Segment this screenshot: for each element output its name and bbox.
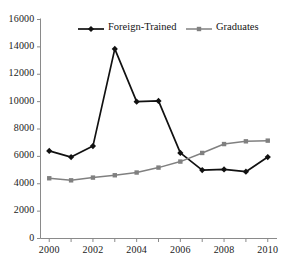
- data-point-marker: [244, 139, 248, 143]
- chart-container: 0200040006000800010000120001400016000 20…: [0, 0, 287, 264]
- y-axis-tick-label: 4000: [0, 177, 35, 188]
- data-point-marker: [178, 159, 182, 163]
- series-line: [49, 141, 268, 181]
- data-point-marker: [156, 165, 160, 169]
- data-point-marker: [197, 27, 201, 31]
- data-point-marker: [222, 142, 226, 146]
- y-axis-tick-label: 6000: [0, 149, 35, 160]
- series-graduates: [47, 138, 270, 182]
- data-point-marker: [134, 170, 138, 174]
- data-point-marker: [113, 173, 117, 177]
- legend-label: Foreign-Trained: [108, 21, 176, 32]
- data-point-marker: [69, 178, 73, 182]
- x-axis-tick-label: 2002: [68, 244, 118, 255]
- data-point-marker: [46, 148, 52, 154]
- legend-item-foreign-trained: [78, 26, 104, 32]
- legend-label: Graduates: [216, 21, 259, 32]
- y-axis-tick-label: 8000: [0, 122, 35, 133]
- data-point-marker: [266, 138, 270, 142]
- data-point-marker: [68, 154, 74, 160]
- series-foreign-trained: [46, 46, 271, 175]
- data-point-marker: [221, 166, 227, 172]
- y-axis-tick-label: 16000: [0, 13, 35, 24]
- data-point-marker: [91, 175, 95, 179]
- y-axis-tick-label: 12000: [0, 67, 35, 78]
- data-point-marker: [47, 176, 51, 180]
- x-axis-tick-label: 2004: [112, 244, 162, 255]
- legend-item-graduates: [186, 27, 212, 31]
- x-axis-tick-label: 2008: [199, 244, 249, 255]
- y-axis-tick-label: 0: [0, 232, 35, 243]
- series-line: [49, 49, 268, 172]
- data-point-marker: [90, 143, 96, 149]
- line-chart-plot: [0, 0, 287, 264]
- data-point-marker: [155, 98, 161, 104]
- x-axis-tick-label: 2006: [155, 244, 205, 255]
- y-axis-tick-label: 2000: [0, 204, 35, 215]
- chart-axes: [37, 19, 277, 243]
- data-point-marker: [200, 151, 204, 155]
- data-point-marker: [88, 26, 94, 32]
- chart-series: [46, 46, 271, 183]
- y-axis-tick-label: 14000: [0, 40, 35, 51]
- x-axis-tick-label: 2010: [243, 244, 287, 255]
- y-axis-tick-label: 10000: [0, 95, 35, 106]
- x-axis-tick-label: 2000: [24, 244, 74, 255]
- data-point-marker: [112, 46, 118, 52]
- data-point-marker: [134, 99, 140, 105]
